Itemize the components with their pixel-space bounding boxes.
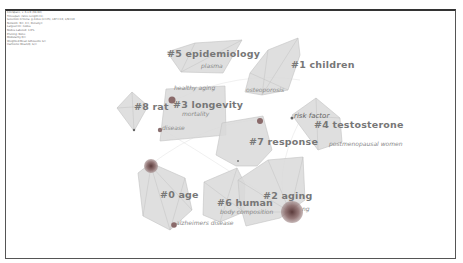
keyword-label: mortality bbox=[182, 110, 209, 117]
node-age-major[interactable] bbox=[144, 159, 158, 173]
node-rat bbox=[133, 129, 135, 131]
node-small bbox=[237, 160, 239, 162]
keyword-label: alzheimers disease bbox=[176, 219, 233, 226]
node-response[interactable] bbox=[257, 118, 263, 124]
cluster-label-1[interactable]: #1 children bbox=[291, 59, 355, 70]
keyword-label: risk factor bbox=[294, 112, 329, 120]
node-aging-major[interactable] bbox=[281, 201, 303, 223]
keyword-label: body composition bbox=[220, 208, 273, 215]
keyword-label: postmenopausal women bbox=[329, 140, 403, 147]
cluster-label-8[interactable]: #8 rat bbox=[134, 101, 169, 112]
cluster-label-3[interactable]: #3 longevity bbox=[173, 99, 243, 110]
cluster-label-5[interactable]: #5 epidemiology bbox=[167, 48, 260, 59]
keyword-label: plasma bbox=[201, 62, 223, 69]
cluster-label-4[interactable]: #4 testosterone bbox=[314, 119, 404, 130]
keyword-label: disease bbox=[162, 124, 185, 131]
keyword-label: healthy aging bbox=[174, 84, 215, 91]
cluster-label-0[interactable]: #0 age bbox=[160, 189, 199, 200]
cluster-label-2[interactable]: #2 aging bbox=[263, 190, 313, 201]
keyword-label: osteoporosis bbox=[246, 86, 284, 93]
cluster-label-7[interactable]: #7 response bbox=[249, 136, 318, 147]
keyword-label: ng bbox=[302, 205, 310, 212]
